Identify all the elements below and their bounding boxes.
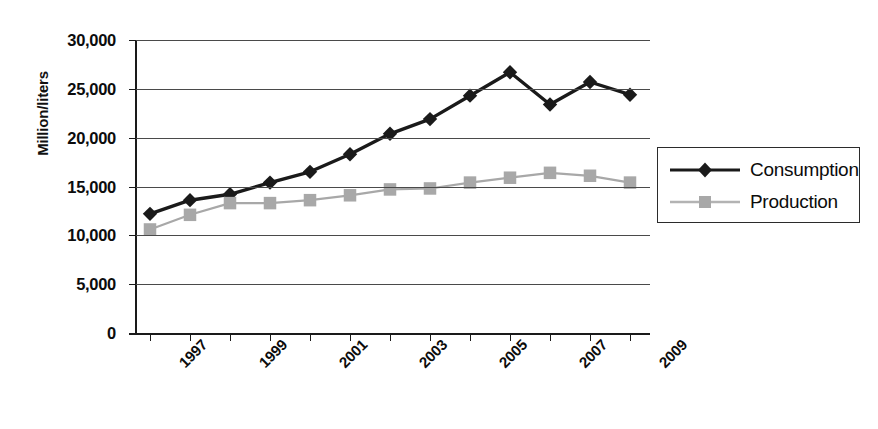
data-point-production[interactable] xyxy=(304,194,317,207)
x-axis-tick-labels: 1997199920012003200520072009 xyxy=(136,336,696,406)
data-point-production[interactable] xyxy=(344,189,357,202)
y-tick-mark xyxy=(129,138,136,139)
y-tick-mark xyxy=(129,333,136,334)
data-point-consumption[interactable] xyxy=(303,165,317,179)
series-line-production xyxy=(150,173,630,230)
x-tick-label: 1997 xyxy=(175,336,210,371)
legend-square-icon xyxy=(668,193,742,211)
data-point-production[interactable] xyxy=(144,223,157,236)
legend-diamond-icon xyxy=(668,161,742,179)
data-point-consumption[interactable] xyxy=(383,127,397,141)
data-point-production[interactable] xyxy=(264,197,277,210)
data-point-production[interactable] xyxy=(384,183,397,196)
legend-item-production[interactable]: Production xyxy=(668,189,838,215)
x-tick-label: 2007 xyxy=(575,336,610,371)
y-axis-tick-labels: 30,00025,00020,00015,00010,0005,0000 xyxy=(18,0,116,429)
x-tick-label: 1999 xyxy=(255,336,290,371)
data-point-production[interactable] xyxy=(544,167,557,180)
legend-label-production: Production xyxy=(750,191,838,213)
x-tick-label: 2003 xyxy=(415,336,450,371)
gridline xyxy=(136,89,650,90)
y-tick-label: 10,000 xyxy=(20,226,116,245)
gridline xyxy=(136,138,650,139)
data-point-production[interactable] xyxy=(584,170,597,183)
data-point-consumption[interactable] xyxy=(343,147,357,161)
x-tick-label: 2005 xyxy=(495,336,530,371)
gridline xyxy=(136,235,650,236)
data-point-consumption[interactable] xyxy=(263,175,277,189)
y-tick-mark xyxy=(129,89,136,90)
data-point-production[interactable] xyxy=(184,209,197,222)
legend-label-consumption: Consumption xyxy=(750,159,859,181)
data-point-production[interactable] xyxy=(224,197,237,210)
data-point-consumption[interactable] xyxy=(143,207,157,221)
data-point-production[interactable] xyxy=(504,171,517,184)
data-point-consumption[interactable] xyxy=(583,75,597,89)
y-tick-mark xyxy=(129,40,136,41)
y-tick-mark xyxy=(129,187,136,188)
plot-area xyxy=(136,40,650,333)
y-tick-label: 0 xyxy=(20,324,116,343)
y-tick-mark xyxy=(129,235,136,236)
gridline xyxy=(136,284,650,285)
data-point-consumption[interactable] xyxy=(183,193,197,207)
gridline xyxy=(136,40,650,41)
data-point-consumption[interactable] xyxy=(463,88,477,102)
y-tick-label: 5,000 xyxy=(20,275,116,294)
y-tick-label: 20,000 xyxy=(20,128,116,147)
y-tick-label: 25,000 xyxy=(20,79,116,98)
data-point-consumption[interactable] xyxy=(423,112,437,126)
y-tick-label: 30,000 xyxy=(20,31,116,50)
legend-item-consumption[interactable]: Consumption xyxy=(668,157,859,183)
gridline xyxy=(136,187,650,188)
chart-container: Million/liters 30,00025,00020,00015,0001… xyxy=(0,0,878,429)
x-tick-label: 2009 xyxy=(655,336,690,371)
y-tick-label: 15,000 xyxy=(20,177,116,196)
y-tick-mark xyxy=(129,284,136,285)
chart-legend: Consumption Production xyxy=(657,147,860,223)
data-point-production[interactable] xyxy=(424,182,437,195)
x-tick-label: 2001 xyxy=(335,336,370,371)
